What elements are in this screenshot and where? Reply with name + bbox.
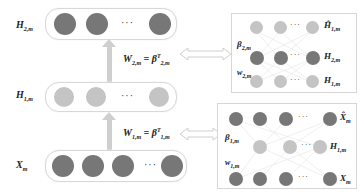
node	[323, 172, 337, 186]
node	[86, 13, 108, 35]
ellipsis: ···	[290, 75, 301, 84]
node	[253, 172, 267, 186]
xm-label: Xm	[16, 159, 27, 172]
ellipsis: ···	[144, 159, 157, 170]
node	[306, 51, 320, 65]
node	[279, 172, 293, 186]
node	[149, 13, 171, 35]
h1m-label-right2: H1,m	[330, 141, 346, 153]
h1m-hat-label: Ĥ1,m	[324, 20, 340, 32]
node	[306, 75, 319, 88]
node	[306, 21, 319, 34]
beta2m-label: β2,m	[237, 39, 251, 51]
node	[313, 140, 327, 154]
node	[161, 155, 183, 177]
xm-hat-label: X̂m	[340, 112, 351, 124]
node	[54, 13, 76, 35]
node	[86, 87, 106, 107]
node	[279, 112, 293, 126]
node	[82, 155, 104, 177]
autoencoder-2-panel: ··· Ĥ1,m β2,m ··· H2,m w2,m ··· H1,m	[231, 13, 357, 93]
h2m-label: H2,m	[16, 19, 33, 32]
h1m-layer: ···	[45, 82, 177, 112]
node	[149, 87, 169, 107]
ellipsis: ···	[290, 50, 301, 59]
xm-label-right: Xm	[340, 173, 351, 185]
node	[283, 140, 297, 154]
node	[250, 51, 264, 65]
w2m-label: w2,m	[237, 68, 252, 79]
w1m-equation: W1,m = βT1,m	[123, 127, 170, 140]
node	[323, 112, 337, 126]
ellipsis: ···	[298, 112, 309, 121]
node	[274, 51, 288, 65]
node	[250, 75, 263, 88]
node	[112, 155, 134, 177]
h2m-layer: ···	[45, 8, 177, 40]
double-arrow-icon	[178, 46, 233, 62]
node	[52, 155, 74, 177]
h1m-label-right: H1,m	[324, 75, 340, 87]
w1m-label: w1,m	[225, 158, 240, 169]
xm-layer: ···	[45, 150, 187, 182]
ellipsis: ···	[121, 90, 134, 101]
node	[250, 21, 263, 34]
node	[229, 172, 243, 186]
node	[253, 112, 267, 126]
node	[274, 75, 287, 88]
h2m-label-right: H2,m	[324, 51, 340, 63]
beta1m-label: β1,m	[225, 132, 239, 144]
node	[274, 21, 287, 34]
ellipsis: ···	[121, 17, 134, 28]
w2m-equation: W2,m = βT2,m	[123, 53, 170, 66]
h1m-label: H1,m	[16, 89, 33, 102]
node	[54, 87, 74, 107]
ellipsis: ···	[298, 172, 309, 181]
arrow-head-icon	[102, 39, 116, 47]
ellipsis: ···	[301, 140, 312, 149]
autoencoder-1-panel: ··· X̂m β1,m ··· H1,m w1,m ··· Xm	[217, 103, 357, 189]
arrow-up-icon	[107, 45, 112, 85]
node	[253, 140, 267, 154]
node	[229, 112, 243, 126]
ellipsis: ···	[290, 20, 301, 29]
arrow-head-icon	[102, 112, 116, 120]
